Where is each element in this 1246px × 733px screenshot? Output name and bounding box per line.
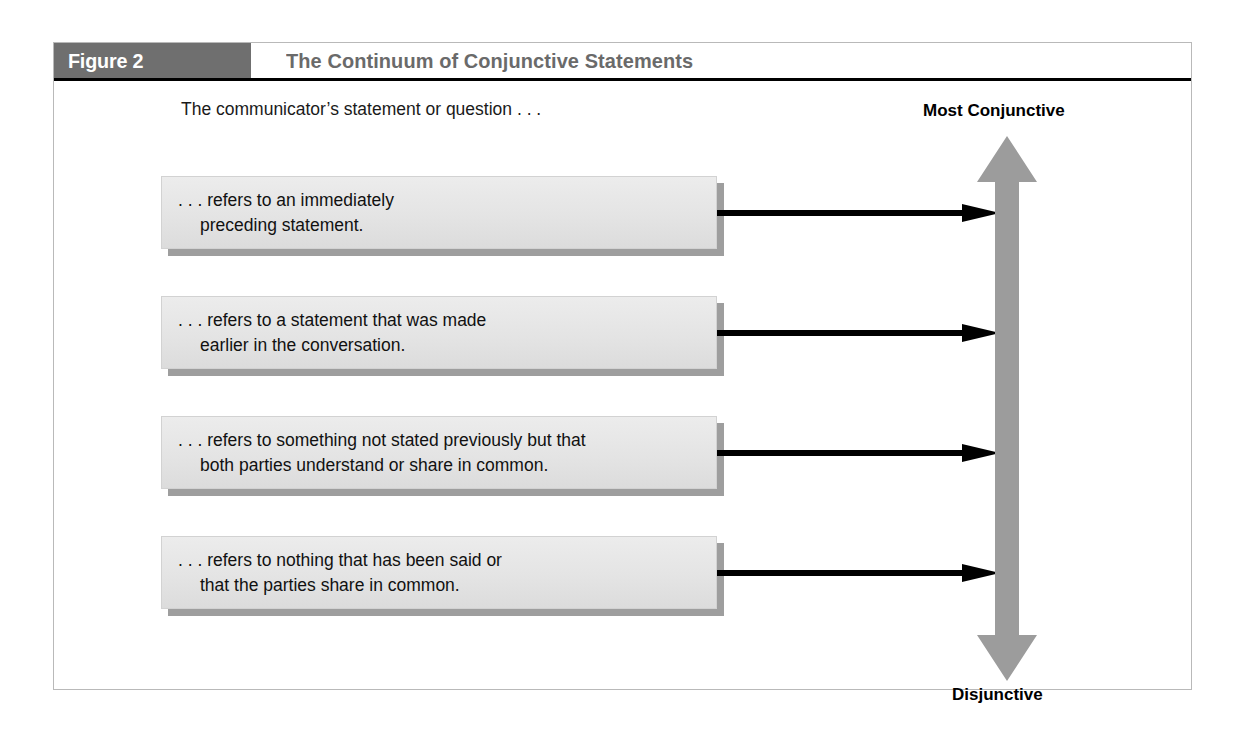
right-arrow-icon (717, 564, 1000, 582)
statement-box: . . . refers to an immediately preceding… (161, 176, 717, 249)
statement-text: . . . refers to something not stated pre… (162, 428, 586, 478)
statement-text: . . . refers to an immediately preceding… (162, 188, 394, 238)
statement-text: . . . refers to a statement that was mad… (162, 308, 486, 358)
right-arrow-icon (717, 204, 1000, 222)
statement-line-2: both parties understand or share in comm… (178, 453, 586, 478)
statement-line-2: earlier in the conversation. (178, 333, 486, 358)
figure-header: Figure 2 The Continuum of Conjunctive St… (54, 43, 1191, 81)
statement-line-1: . . . refers to an immediately (178, 190, 394, 210)
right-arrow-icon (717, 324, 1000, 342)
figure-title: The Continuum of Conjunctive Statements (286, 49, 693, 73)
figure-title-container: The Continuum of Conjunctive Statements (251, 43, 1191, 78)
continuum-top-label: Most Conjunctive (923, 101, 1065, 121)
continuum-bottom-label: Disjunctive (952, 685, 1043, 705)
intro-caption: The communicator’s statement or question… (181, 99, 541, 120)
double-headed-vertical-arrow-icon (975, 136, 1039, 681)
statement-line-2: preceding statement. (178, 213, 394, 238)
right-arrow-icon (717, 444, 1000, 462)
statement-text: . . . refers to nothing that has been sa… (162, 548, 502, 598)
figure-frame: Figure 2 The Continuum of Conjunctive St… (53, 42, 1192, 690)
statement-line-2: that the parties share in common. (178, 573, 502, 598)
statement-line-1: . . . refers to nothing that has been sa… (178, 550, 502, 570)
statement-line-1: . . . refers to something not stated pre… (178, 430, 586, 450)
statement-box: . . . refers to a statement that was mad… (161, 296, 717, 369)
statement-box: . . . refers to something not stated pre… (161, 416, 717, 489)
statement-line-1: . . . refers to a statement that was mad… (178, 310, 486, 330)
figure-number-label: Figure 2 (68, 49, 143, 73)
figure-number-band: Figure 2 (54, 43, 251, 78)
statement-box: . . . refers to nothing that has been sa… (161, 536, 717, 609)
figure-body: The communicator’s statement or question… (54, 84, 1191, 689)
